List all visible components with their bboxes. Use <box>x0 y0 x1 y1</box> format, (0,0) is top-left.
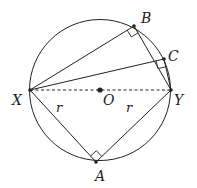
point-x <box>28 88 32 92</box>
point-c <box>162 57 166 61</box>
point-o <box>97 87 102 92</box>
label-o: O <box>103 92 115 108</box>
geometry-diagram: B C X Y O A r r <box>0 0 197 188</box>
label-y: Y <box>174 92 185 108</box>
segment-xc <box>30 59 164 90</box>
label-a: A <box>93 168 105 184</box>
label-x: X <box>11 92 23 108</box>
segment-xb <box>30 26 134 90</box>
point-a <box>94 160 98 164</box>
label-r-xa: r <box>56 100 63 115</box>
right-angle-marker-a <box>91 151 102 157</box>
label-b: B <box>140 10 151 26</box>
label-r-ay: r <box>126 100 133 115</box>
point-y <box>169 88 173 92</box>
point-b <box>132 24 136 28</box>
label-c: C <box>168 48 179 64</box>
